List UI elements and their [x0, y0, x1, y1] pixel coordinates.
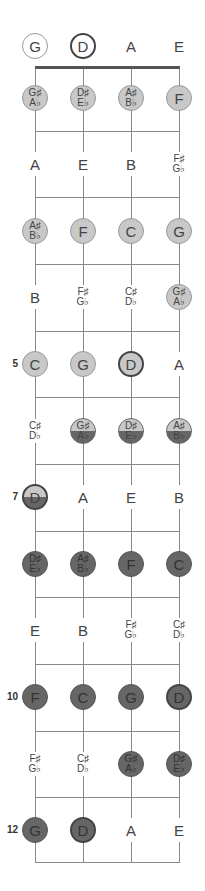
note-flat-label: B♭	[173, 431, 185, 441]
fret-line-5	[35, 397, 180, 398]
fret-number-label: 5	[2, 358, 18, 369]
note-marker: A	[117, 34, 145, 58]
note-marker: D♯E♭	[118, 418, 144, 444]
fret-line-3	[35, 264, 180, 265]
note-marker: A♯B♭	[70, 551, 96, 577]
note-marker: F	[70, 218, 96, 244]
fret-line-11	[35, 797, 180, 798]
note-marker: G♯A♭	[70, 418, 96, 444]
note-marker: F♯G♭	[21, 752, 49, 776]
note-label: B	[126, 157, 136, 172]
note-marker: G	[22, 33, 48, 59]
note-marker: C	[118, 218, 144, 244]
note-marker: C♯D♭	[165, 618, 193, 642]
fret-number-label: 10	[2, 691, 18, 702]
note-marker: C	[166, 551, 192, 577]
note-marker: G	[22, 817, 48, 843]
note-flat-label: B♭	[77, 564, 89, 574]
fret-line-9	[35, 664, 180, 665]
note-marker: F♯G♭	[117, 618, 145, 642]
note-marker: C	[22, 351, 48, 377]
note-marker: A	[69, 485, 97, 509]
fret-line-8	[35, 597, 180, 598]
note-marker: E	[21, 618, 49, 642]
note-flat-label: G♭	[173, 164, 186, 174]
note-label: D	[30, 490, 41, 505]
nut-line	[35, 66, 180, 69]
note-marker: B	[21, 285, 49, 309]
note-label: E	[126, 490, 136, 505]
note-flat-label: B♭	[29, 231, 41, 241]
note-flat-label: G♭	[77, 297, 90, 307]
note-flat-label: D♭	[173, 630, 185, 640]
note-label: G	[77, 357, 89, 372]
fret-line-7	[35, 531, 180, 532]
note-flat-label: A♭	[77, 431, 89, 441]
note-label: G	[125, 690, 137, 705]
note-flat-label: D♭	[77, 764, 89, 774]
note-label: A	[126, 39, 136, 54]
note-label: D	[126, 357, 137, 372]
note-marker: A♯B♭	[118, 85, 144, 111]
note-flat-label: D♭	[29, 431, 41, 441]
note-label: F	[78, 224, 87, 239]
fret-line-10	[35, 731, 180, 732]
note-marker: F	[118, 551, 144, 577]
note-marker: A	[21, 152, 49, 176]
note-label: D	[174, 690, 185, 705]
note-label: C	[78, 690, 89, 705]
note-flat-label: A♭	[29, 98, 41, 108]
note-marker: C	[70, 684, 96, 710]
note-marker: G♯A♭	[166, 284, 192, 310]
note-flat-label: E♭	[29, 564, 41, 574]
note-marker: A	[117, 818, 145, 842]
note-flat-label: D♭	[125, 297, 137, 307]
note-label: E	[174, 39, 184, 54]
fret-line-2	[35, 197, 180, 198]
note-marker: G	[166, 218, 192, 244]
note-marker: C♯D♭	[117, 285, 145, 309]
note-label: G	[173, 224, 185, 239]
note-marker: A♯B♭	[22, 218, 48, 244]
note-marker: C♯D♭	[69, 752, 97, 776]
note-label: C	[30, 357, 41, 372]
note-marker: B	[69, 618, 97, 642]
note-flat-label: E♭	[125, 431, 137, 441]
note-marker: E	[165, 34, 193, 58]
note-flat-label: E♭	[173, 764, 185, 774]
note-marker: D♯E♭	[70, 85, 96, 111]
note-flat-label: A♭	[173, 297, 185, 307]
fret-number-label: 12	[2, 824, 18, 835]
note-marker: D♯E♭	[166, 751, 192, 777]
note-label: B	[174, 490, 184, 505]
note-flat-label: G♭	[29, 764, 42, 774]
fret-line-6	[35, 464, 180, 465]
note-label: F	[126, 557, 135, 572]
fret-line-12	[35, 862, 180, 863]
note-marker: D	[70, 33, 96, 59]
note-marker: F	[166, 85, 192, 111]
fret-number-label: 7	[2, 491, 18, 502]
note-label: E	[78, 157, 88, 172]
note-marker: E	[117, 485, 145, 509]
note-flat-label: A♭	[125, 764, 137, 774]
note-marker: E	[69, 152, 97, 176]
note-marker: A♯B♭	[166, 418, 192, 444]
note-marker: D	[22, 484, 48, 510]
note-flat-label: G♭	[125, 630, 138, 640]
note-marker: F♯G♭	[69, 285, 97, 309]
note-label: G	[29, 39, 41, 54]
note-label: D	[78, 39, 89, 54]
note-marker: G	[70, 351, 96, 377]
fret-line-1	[35, 131, 180, 132]
note-label: E	[174, 823, 184, 838]
note-flat-label: E♭	[77, 98, 89, 108]
note-label: A	[174, 357, 184, 372]
note-flat-label: B♭	[125, 98, 137, 108]
note-label: F	[174, 91, 183, 106]
note-marker: B	[117, 152, 145, 176]
note-label: F	[30, 690, 39, 705]
note-label: C	[174, 557, 185, 572]
note-marker: D	[166, 684, 192, 710]
note-marker: A	[165, 352, 193, 376]
